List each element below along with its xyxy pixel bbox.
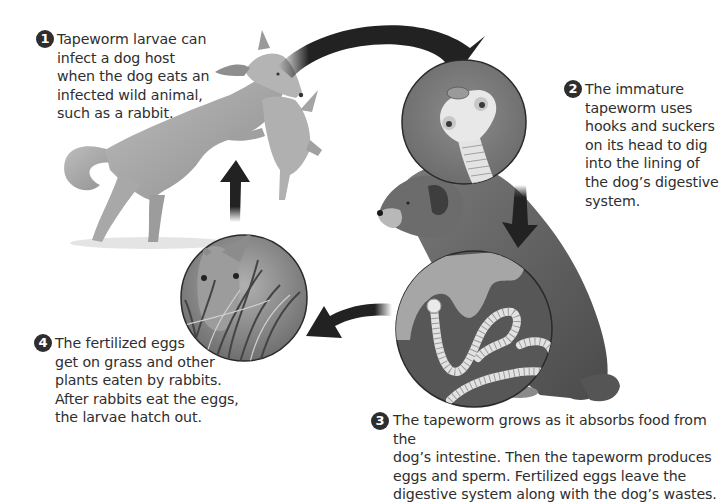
step-3-caption: 3 The tapeworm grows as it absorbs food … bbox=[393, 411, 723, 504]
step-4-text: The fertilized eggs get on grass and oth… bbox=[55, 334, 265, 427]
step-1-number-badge: 1 bbox=[36, 30, 54, 48]
step-1-caption: 1 Tapeworm larvae can infect a dog host … bbox=[57, 30, 237, 123]
step-4-number-badge: 4 bbox=[34, 334, 52, 352]
step-2-caption: 2 The immature tapeworm uses hooks and s… bbox=[585, 80, 725, 210]
step-4-caption: 4 The fertilized eggs get on grass and o… bbox=[55, 334, 265, 427]
step-3-text: The tapeworm grows as it absorbs food fr… bbox=[393, 411, 723, 504]
step-2-text: The immature tapeworm uses hooks and suc… bbox=[585, 80, 725, 210]
arrow-step3-to-step4 bbox=[306, 304, 392, 339]
step-3-number-badge: 3 bbox=[371, 412, 389, 430]
arrow-step4-to-step1 bbox=[220, 160, 250, 222]
step-2-number-badge: 2 bbox=[564, 80, 582, 98]
step-1-text: Tapeworm larvae can infect a dog host wh… bbox=[57, 30, 237, 123]
